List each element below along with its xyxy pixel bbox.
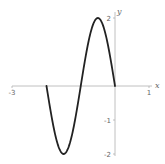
x-axis: -3 1 x: [9, 81, 160, 97]
x-axis-label: x: [155, 81, 160, 90]
y-axis-label: y: [116, 7, 122, 16]
y-axis: 2 -1 -2 y: [104, 7, 122, 159]
y-tick-label-neg1: -1: [104, 117, 111, 125]
y-tick-label-neg2: -2: [104, 151, 111, 159]
y-tick-label-2: 2: [107, 15, 111, 23]
x-tick-label-neg3: -3: [9, 89, 16, 97]
x-tick-label-1: 1: [147, 89, 151, 97]
function-plot: -3 1 x 2 -1 -2 y: [0, 0, 165, 164]
